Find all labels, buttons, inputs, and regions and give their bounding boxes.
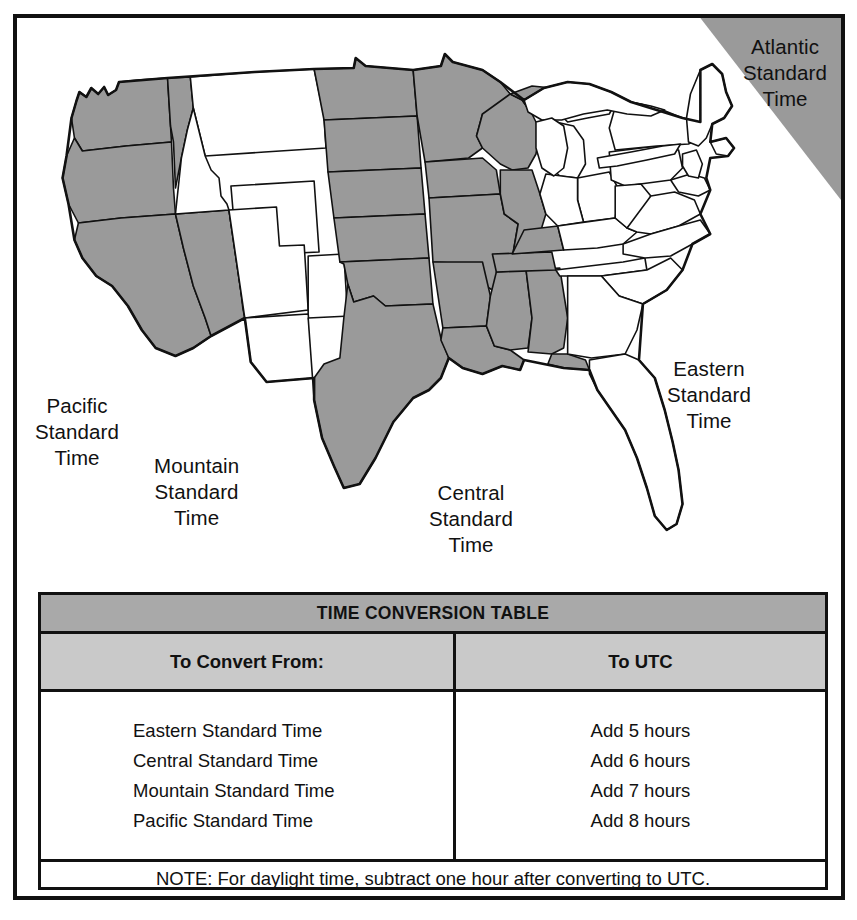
zone-label-pacific: Pacific Standard Time — [35, 393, 119, 471]
state-mississippi — [486, 270, 532, 350]
state-arizona — [245, 314, 314, 382]
state-south-dakota — [324, 116, 421, 172]
state-new-england — [687, 64, 733, 146]
zone-label-central: Central Standard Time — [429, 480, 513, 558]
state-colorado — [308, 254, 348, 320]
state-new-jersey — [683, 150, 703, 178]
time-conversion-table-panel: TIME CONVERSION TABLE To Convert From: T… — [17, 578, 841, 904]
state-washington — [71, 78, 171, 151]
table-header-row: To Convert From: To UTC — [41, 634, 825, 692]
table-cell-toutc-2: Add 7 hours — [591, 776, 691, 806]
state-tennessee-west — [492, 252, 555, 272]
state-oregon — [63, 138, 176, 223]
state-arkansas — [433, 262, 490, 328]
table-cell-toutc-1: Add 6 hours — [591, 746, 691, 776]
state-montana — [190, 69, 326, 156]
table-note: NOTE: For daylight time, subtract one ho… — [41, 862, 825, 896]
state-indiana — [540, 174, 584, 226]
table-cell-from-0: Eastern Standard Time — [133, 716, 322, 746]
table-cell-toutc-3: Add 8 hours — [591, 806, 691, 836]
zone-label-mountain: Mountain Standard Time — [154, 453, 239, 531]
state-nebraska — [328, 168, 425, 218]
table-cell-toutc-0: Add 5 hours — [591, 716, 691, 746]
table-title: TIME CONVERSION TABLE — [41, 595, 825, 634]
state-kansas — [334, 214, 429, 262]
table-column-to-utc: Add 5 hours Add 6 hours Add 7 hours Add … — [453, 692, 825, 859]
zone-label-eastern: Eastern Standard Time — [667, 356, 751, 434]
table-cell-from-3: Pacific Standard Time — [133, 806, 313, 836]
time-zone-figure: Atlantic Standard Time Eastern Standard … — [13, 14, 845, 900]
state-iowa — [425, 158, 500, 198]
table-column-convert-from: Eastern Standard Time Central Standard T… — [41, 692, 453, 859]
zone-label-atlantic: Atlantic Standard Time — [743, 34, 827, 112]
table-header-to-utc: To UTC — [453, 634, 825, 689]
table-cell-from-2: Mountain Standard Time — [133, 776, 335, 806]
table-body: Eastern Standard Time Central Standard T… — [41, 692, 825, 862]
us-time-zone-map: Atlantic Standard Time Eastern Standard … — [17, 18, 841, 578]
lake-michigan — [536, 118, 568, 176]
time-conversion-table: TIME CONVERSION TABLE To Convert From: T… — [38, 592, 828, 890]
table-cell-from-1: Central Standard Time — [133, 746, 318, 776]
table-header-convert-from: To Convert From: — [41, 634, 453, 689]
state-alabama-west — [526, 268, 568, 354]
state-oklahoma — [340, 258, 433, 306]
